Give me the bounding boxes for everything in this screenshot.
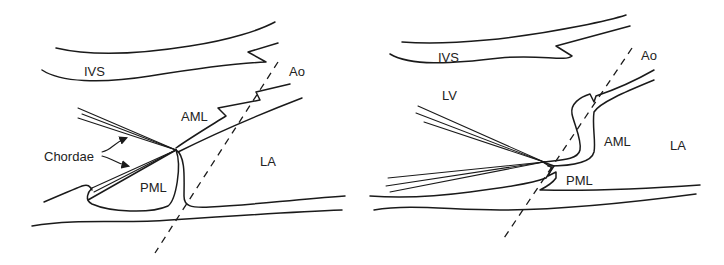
aml-lower-line — [178, 98, 302, 152]
label-la: LA — [670, 138, 686, 153]
chordae-arrow-lower — [102, 156, 128, 166]
left-panel: IVS Ao AML Chordae LA PML — [32, 22, 345, 253]
pml-posterior — [370, 162, 554, 197]
label-ivs: IVS — [438, 50, 459, 65]
label-lv: LV — [442, 88, 457, 103]
lv-bottom-wall — [32, 210, 342, 226]
chordae-upper-3 — [78, 118, 176, 150]
ivs-upper-wall — [402, 15, 626, 43]
label-ao: Ao — [289, 64, 305, 79]
chordae-upper-1 — [418, 106, 544, 162]
right-panel: IVS Ao LV AML LA PML — [370, 15, 700, 238]
chordae-upper-2 — [82, 114, 176, 150]
ivs-lower-wall — [390, 26, 630, 63]
label-ao: Ao — [641, 48, 657, 63]
chordae-arrow-upper — [102, 138, 126, 152]
chordae-upper-3 — [424, 122, 544, 162]
label-aml: AML — [604, 134, 631, 149]
chordae-lower-1 — [388, 162, 544, 178]
pml-leaflet — [540, 162, 700, 190]
label-pml: PML — [140, 180, 167, 195]
label-aml: AML — [181, 109, 208, 124]
aml-upper-line — [543, 70, 654, 162]
label-ivs: IVS — [84, 64, 105, 79]
label-pml: PML — [566, 173, 593, 188]
ivs-lower-wall — [42, 43, 278, 81]
chordae-lower-3 — [390, 162, 544, 192]
posterior-wall-left — [44, 185, 92, 202]
label-la: LA — [260, 154, 276, 169]
mitral-valve-diagram: IVS Ao AML Chordae LA PML IVS Ao LV AM — [0, 0, 724, 265]
chordae-upper-1 — [78, 108, 176, 150]
label-chordae: Chordae — [44, 149, 94, 164]
chordae-lower-2 — [386, 162, 544, 186]
chordae-upper-2 — [416, 113, 544, 162]
ivs-upper-wall — [56, 22, 275, 53]
